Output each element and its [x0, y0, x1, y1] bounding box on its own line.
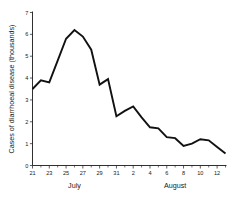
x-tick-label: 10 — [197, 170, 203, 176]
x-tick-label: 12 — [214, 170, 220, 176]
x-tick-label: 27 — [80, 170, 86, 176]
y-tick-label: 0 — [25, 163, 28, 169]
x-tick-label: 4 — [148, 170, 151, 176]
y-axis: 01234567 — [25, 10, 32, 169]
data-series-diarrhoeal-cases — [33, 30, 226, 153]
y-tick-label: 2 — [25, 119, 28, 125]
x-tick-label: 8 — [182, 170, 185, 176]
x-tick-label: 6 — [165, 170, 168, 176]
y-tick-label: 3 — [25, 97, 28, 103]
x-tick-label: 21 — [29, 170, 35, 176]
y-tick-label: 5 — [25, 53, 28, 59]
x-tick-label: 31 — [113, 170, 119, 176]
y-tick-label: 6 — [25, 31, 28, 37]
y-tick-label: 7 — [25, 10, 28, 16]
x-axis: 21232527293124681012 — [29, 166, 226, 177]
x-tick-label: 29 — [97, 170, 103, 176]
y-tick-label: 1 — [25, 141, 28, 147]
x-group-label-august: August — [164, 181, 186, 190]
x-tick-label: 25 — [63, 170, 69, 176]
x-group-label-july: July — [68, 181, 81, 190]
y-axis-title: Cases of diarrhoeal disease (thousands) — [7, 24, 16, 153]
line-chart: 01234567 21232527293124681012 JulyAugust… — [0, 0, 231, 199]
axis-labels: JulyAugustCases of diarrhoeal disease (t… — [7, 24, 187, 189]
x-tick-label: 2 — [132, 170, 135, 176]
x-tick-label: 23 — [46, 170, 52, 176]
y-tick-label: 4 — [25, 75, 28, 81]
series-line — [33, 30, 226, 153]
chart-figure: 01234567 21232527293124681012 JulyAugust… — [0, 0, 231, 199]
